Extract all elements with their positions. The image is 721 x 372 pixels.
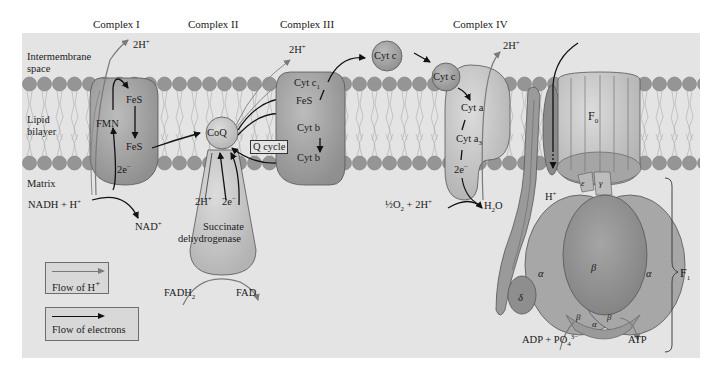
cyt-c-bound-label: Cyt c — [433, 71, 455, 83]
legend-electron-label: Flow of electrons — [52, 324, 126, 335]
oxygen-label: ½O2 + 2H+ — [385, 199, 432, 211]
beta-bottom-right-label: β — [607, 311, 611, 323]
gamma-subunit — [594, 172, 612, 195]
complex-3-proton-label: 2H+ — [289, 44, 306, 56]
cyt-b-top-label: Cyt b — [297, 122, 320, 134]
beta-center — [563, 195, 647, 315]
f1-label: F1 — [680, 267, 690, 279]
fes-bottom-label: FeS — [126, 141, 142, 153]
fad-label: FAD — [236, 287, 256, 299]
complex-2-electron-label: 2e− — [222, 196, 236, 208]
lipid-label: Lipid — [27, 114, 50, 126]
nad-label: NAD+ — [135, 221, 162, 233]
cyt-c-free-label: Cyt c — [374, 50, 396, 62]
water-label: H2O — [484, 200, 503, 212]
delta-label: δ — [518, 292, 523, 304]
electron-arrow-icon — [52, 316, 102, 317]
cyt-a-label: Cyt a — [461, 102, 483, 114]
matrix-label: Matrix — [27, 178, 56, 190]
alpha-bottom-label: α — [592, 318, 597, 330]
dehydrogenase-label: dehydrogenase — [178, 233, 241, 245]
succinate-label: Succinate — [203, 221, 244, 233]
cyt-a3-label: Cyt a3 — [456, 133, 482, 145]
complex-4-proton-label: 2H+ — [503, 40, 520, 52]
alpha-left-label: α — [538, 268, 544, 280]
complex-4-electron-label: 2e− — [454, 164, 468, 176]
fmn-label: FMN — [96, 118, 119, 130]
fadh2-label: FADH2 — [164, 287, 195, 299]
proton-arrow-icon — [52, 271, 102, 272]
complex-4-title: Complex IV — [453, 18, 508, 30]
legend-proton-label: Flow of H+ — [52, 278, 100, 293]
cyt-c1-label: Cyt c1 — [294, 77, 320, 89]
legend-proton-flow: Flow of H+ — [45, 262, 109, 294]
atp-label: ATP — [628, 334, 647, 346]
cyt-b-bottom-label: Cyt b — [297, 152, 320, 164]
beta-bottom-left-label: β — [576, 311, 580, 323]
f0-label: F0 — [588, 110, 598, 122]
complex-3-title: Complex III — [280, 18, 334, 30]
intermembrane-label: Intermembrane — [27, 51, 91, 63]
bilayer-label: bilayer — [27, 126, 56, 138]
epsilon-label: ε — [581, 177, 585, 189]
adp-label: ADP + PO43− — [522, 334, 578, 346]
fes-top-label: FeS — [126, 94, 142, 106]
gamma-label: γ — [599, 177, 603, 189]
nadh-label: NADH + H+ — [28, 199, 81, 211]
complex-2-proton-label: 2H+ — [195, 196, 212, 208]
complex-1-title: Complex I — [93, 18, 140, 30]
complex-1-electron-label: 2e− — [117, 164, 131, 176]
alpha-right-label: α — [646, 268, 652, 280]
complex-2-title: Complex II — [188, 18, 238, 30]
intermembrane-label-2: space — [27, 63, 50, 75]
beta-center-label: β — [591, 262, 596, 274]
complex-3-fes-label: FeS — [296, 95, 312, 107]
proton-in-label: H+ — [545, 191, 557, 203]
q-cycle-label: Q cycle — [250, 140, 288, 154]
coq-label: CoQ — [207, 127, 227, 139]
complex-1-proton-label: 2H+ — [133, 39, 150, 51]
legend-electron-flow: Flow of electrons — [45, 307, 139, 341]
